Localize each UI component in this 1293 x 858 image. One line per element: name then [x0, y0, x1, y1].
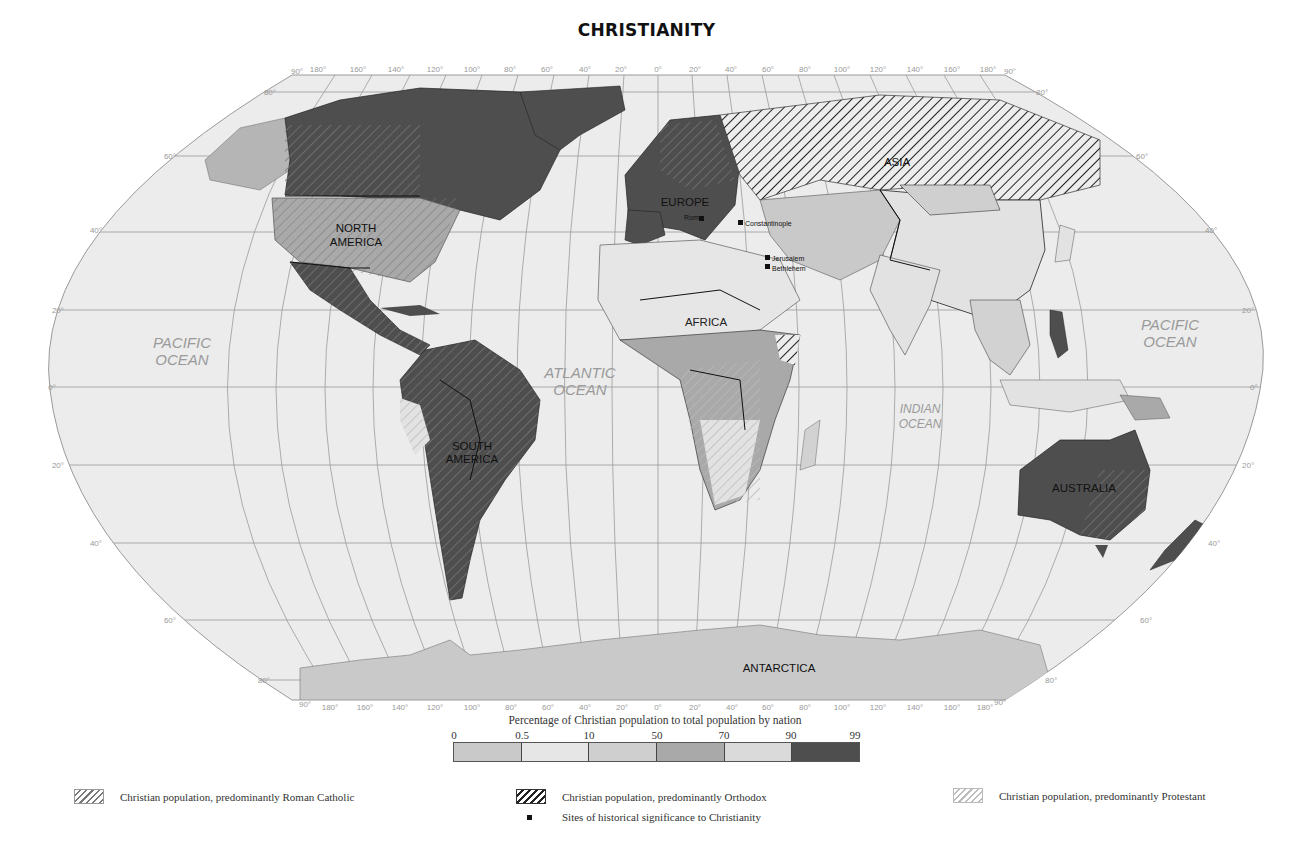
svg-text:60°: 60° [1140, 616, 1152, 625]
svg-text:120°: 120° [870, 65, 887, 74]
svg-text:0°: 0° [654, 65, 662, 74]
site-label: Bethlehem [772, 265, 806, 272]
svg-text:40°: 40° [90, 226, 102, 235]
svg-text:90°: 90° [299, 700, 311, 709]
legend-roman-catholic: Christian population, predominantly Roma… [74, 789, 354, 804]
svg-text:80°: 80° [504, 65, 516, 74]
scale-swatch-50-70 [657, 743, 725, 761]
svg-text:20°: 20° [52, 306, 64, 315]
scale-swatch-70-90 [725, 743, 793, 761]
legend-label: Sites of historical significance to Chri… [562, 811, 761, 823]
continent-label: EUROPE [661, 196, 710, 208]
svg-text:60°: 60° [762, 65, 774, 74]
scale-title: Percentage of Christian population to to… [430, 714, 880, 726]
ocean-label: PACIFICOCEAN [1141, 316, 1199, 350]
svg-text:140°: 140° [907, 65, 924, 74]
svg-text:160°: 160° [944, 65, 961, 74]
svg-text:120°: 120° [427, 703, 444, 712]
svg-text:40°: 40° [1205, 226, 1217, 235]
svg-text:90°: 90° [994, 698, 1006, 707]
site-label: Rome [684, 214, 703, 221]
svg-text:20°: 20° [52, 461, 64, 470]
scale-swatch-10-50 [589, 743, 657, 761]
svg-text:20°: 20° [1242, 461, 1254, 470]
svg-text:100°: 100° [464, 703, 481, 712]
svg-text:140°: 140° [907, 703, 924, 712]
svg-text:120°: 120° [427, 65, 444, 74]
svg-text:180°: 180° [980, 65, 997, 74]
ocean-label: ATLANTICOCEAN [543, 364, 616, 398]
svg-text:40°: 40° [579, 703, 591, 712]
svg-text:0°: 0° [1250, 383, 1258, 392]
svg-text:180°: 180° [310, 65, 327, 74]
svg-text:80°: 80° [1036, 88, 1048, 97]
svg-text:140°: 140° [392, 703, 409, 712]
scale-swatch-0.5-10 [522, 743, 590, 761]
svg-text:40°: 40° [90, 539, 102, 548]
legend-sites: Sites of historical significance to Chri… [516, 811, 761, 823]
ocean-label: INDIANOCEAN [899, 402, 942, 431]
svg-text:90°: 90° [1004, 67, 1016, 76]
scale-tick: 90 [786, 729, 797, 741]
svg-text:90°: 90° [291, 67, 303, 76]
scale-swatch-90-99 [792, 743, 859, 761]
legend-label: Christian population, predominantly Roma… [120, 791, 354, 803]
ocean-label: PACIFICOCEAN [153, 334, 211, 368]
scale-bar [453, 742, 860, 762]
svg-text:100°: 100° [834, 703, 851, 712]
longitude-labels-top: 90° 180° 160° 140° 120° 100° 80° 60° 40°… [291, 65, 1016, 76]
scale-tick: 70 [719, 729, 730, 741]
svg-text:60°: 60° [164, 616, 176, 625]
svg-text:80°: 80° [264, 88, 276, 97]
svg-text:100°: 100° [834, 65, 851, 74]
hatch-orthodox-icon [516, 789, 546, 804]
hatch-protestant-icon [953, 788, 983, 803]
scale-tick: 10 [584, 729, 595, 741]
scale-tick: 0.5 [515, 729, 529, 741]
continent-label: AFRICA [685, 316, 728, 328]
svg-text:40°: 40° [725, 65, 737, 74]
svg-text:180°: 180° [977, 703, 994, 712]
scale-tick: 99 [850, 729, 861, 741]
svg-text:80°: 80° [505, 703, 517, 712]
svg-text:100°: 100° [464, 65, 481, 74]
svg-text:140°: 140° [388, 65, 405, 74]
svg-text:40°: 40° [1208, 539, 1220, 548]
scale-ticks: 0 0.5 10 50 70 90 99 [452, 729, 862, 741]
site-marker-icon [527, 815, 532, 820]
svg-text:20°: 20° [689, 65, 701, 74]
svg-text:20°: 20° [689, 703, 701, 712]
scale-tick: 50 [652, 729, 663, 741]
svg-text:0°: 0° [48, 383, 56, 392]
svg-text:160°: 160° [357, 703, 374, 712]
legend-label: Christian population, predominantly Orth… [562, 791, 767, 803]
svg-text:60°: 60° [542, 703, 554, 712]
legend-orthodox: Christian population, predominantly Orth… [516, 789, 767, 804]
svg-text:160°: 160° [350, 65, 367, 74]
site-label: Constantinople [745, 220, 792, 228]
svg-text:80°: 80° [258, 676, 270, 685]
svg-text:20°: 20° [616, 703, 628, 712]
continent-label: ANTARCTICA [743, 662, 816, 674]
svg-text:60°: 60° [164, 152, 176, 161]
svg-text:80°: 80° [799, 703, 811, 712]
site-label: Jerusalem [772, 255, 804, 262]
svg-text:120°: 120° [870, 703, 887, 712]
svg-text:80°: 80° [1045, 676, 1057, 685]
continent-label: SOUTHAMERICA [446, 440, 499, 465]
svg-text:40°: 40° [579, 65, 591, 74]
svg-text:20°: 20° [1242, 306, 1254, 315]
svg-text:180°: 180° [322, 703, 339, 712]
hatch-roman-catholic-icon [74, 789, 104, 804]
svg-text:60°: 60° [1136, 152, 1148, 161]
continent-label: ASIA [884, 156, 911, 168]
svg-text:40°: 40° [726, 703, 738, 712]
svg-text:160°: 160° [944, 703, 961, 712]
svg-text:0°: 0° [654, 703, 662, 712]
scale-swatch-0-0.5 [454, 743, 522, 761]
continent-label: AUSTRALIA [1052, 482, 1116, 494]
svg-text:60°: 60° [541, 65, 553, 74]
svg-text:20°: 20° [615, 65, 627, 74]
legend-protestant: Christian population, predominantly Prot… [953, 788, 1206, 803]
scale-tick: 0 [451, 729, 457, 741]
